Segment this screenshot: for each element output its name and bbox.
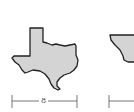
diagram-canvas: 8	[0, 0, 134, 112]
partial-shape-right	[110, 35, 134, 62]
dimension-label: 8	[40, 96, 47, 105]
texas-shape	[12, 28, 78, 90]
dimension-bar-partial	[109, 95, 134, 108]
